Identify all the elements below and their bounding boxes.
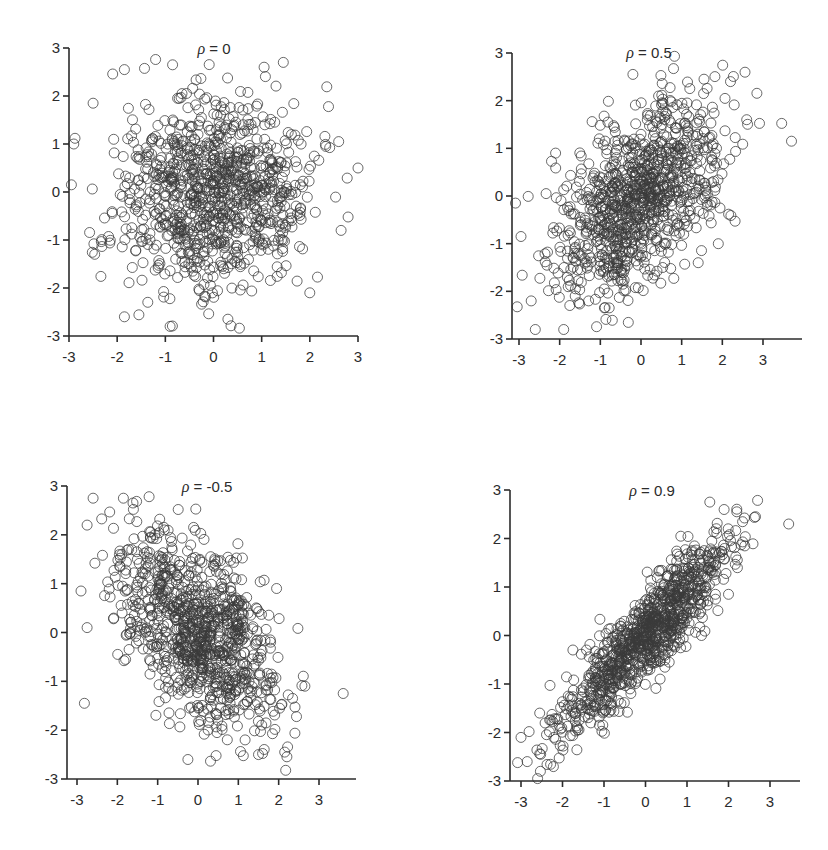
data-point [190, 525, 200, 535]
data-point [777, 118, 787, 128]
data-point [693, 258, 703, 268]
x-tick-label: -2 [111, 791, 124, 808]
data-point [119, 312, 129, 322]
data-point [704, 211, 714, 221]
data-point [724, 589, 734, 599]
data-point [129, 534, 139, 544]
data-point [656, 278, 666, 288]
x-tick-label: -3 [62, 348, 75, 365]
panel-title: ρ = 0 [196, 40, 230, 58]
data-point [677, 240, 687, 250]
data-point [562, 272, 572, 282]
data-point [90, 249, 100, 259]
y-tick-label: -3 [45, 770, 58, 787]
x-tick-label: 0 [641, 793, 649, 810]
data-point [574, 176, 584, 186]
x-tick-label: 3 [759, 351, 767, 368]
data-point [280, 167, 290, 177]
data-point [692, 100, 702, 110]
data-point [69, 139, 79, 149]
data-point [676, 531, 686, 541]
data-point [752, 88, 762, 98]
y-tick-label: -2 [45, 721, 58, 738]
y-tick-label: 2 [52, 87, 60, 104]
data-point [666, 555, 676, 565]
data-point [669, 273, 679, 283]
y-tick-label: -3 [47, 327, 60, 344]
data-point [336, 225, 346, 235]
data-point [715, 203, 725, 213]
data-point [159, 292, 169, 302]
x-tick-label: 0 [637, 351, 645, 368]
data-point [595, 614, 605, 624]
data-point [568, 645, 578, 655]
data-point [338, 689, 348, 699]
data-point [732, 507, 742, 517]
data-point [576, 277, 586, 287]
data-point [109, 148, 119, 158]
scatter-figure: -3-2-10123-3-2-10123 ρ = 0 -3-2-10123-3-… [0, 0, 828, 850]
data-point [566, 170, 576, 180]
x-tick-label: 3 [354, 348, 362, 365]
y-tick-label: 0 [495, 187, 503, 204]
x-tick-label: -3 [70, 791, 83, 808]
data-point [541, 189, 551, 199]
data-point [572, 192, 582, 202]
data-point [109, 614, 119, 624]
data-point [138, 258, 148, 268]
y-tick-label: -1 [47, 231, 60, 248]
panel-rho-0.9: -3-2-10123-3-2-10123 ρ = 0.9 [488, 481, 800, 810]
data-point [82, 623, 92, 633]
data-point [585, 639, 595, 649]
data-point [709, 527, 719, 537]
data-point [266, 695, 276, 705]
data-point [131, 246, 141, 256]
x-tick-label: 1 [257, 348, 265, 365]
data-point [646, 244, 656, 254]
data-point [575, 148, 585, 158]
data-point [530, 325, 540, 335]
data-point [713, 239, 723, 249]
data-point [282, 139, 292, 149]
x-tick-label: 2 [718, 351, 726, 368]
data-point [167, 321, 177, 331]
data-point [129, 137, 139, 147]
data-point [302, 127, 312, 137]
data-point [706, 218, 716, 228]
data-point [636, 98, 646, 108]
data-point [274, 614, 284, 624]
data-point [290, 728, 300, 738]
data-point [324, 102, 334, 112]
data-point [513, 758, 523, 768]
data-point [143, 164, 153, 174]
data-point [292, 712, 302, 722]
data-point [683, 77, 693, 87]
panel-rho-0: -3-2-10123-3-2-10123 ρ = 0 [47, 39, 363, 365]
y-tick-label: 2 [493, 530, 501, 547]
data-point [85, 228, 95, 238]
data-point [108, 69, 118, 79]
data-point [199, 534, 209, 544]
data-point [543, 247, 553, 257]
data-point [88, 493, 98, 503]
y-tick-label: -2 [488, 724, 501, 741]
data-point [259, 62, 269, 72]
data-point [713, 606, 723, 616]
data-point [131, 638, 141, 648]
data-point [252, 134, 262, 144]
data-point [322, 82, 332, 92]
data-point [298, 671, 308, 681]
data-point [196, 528, 206, 538]
data-point [168, 60, 178, 70]
data-point [100, 591, 110, 601]
data-point [240, 648, 250, 658]
data-point [151, 710, 161, 720]
data-point [155, 514, 165, 524]
data-point [132, 496, 142, 506]
x-tick-label: 1 [234, 791, 242, 808]
data-point [177, 533, 187, 543]
data-point [204, 60, 214, 70]
data-point [82, 520, 92, 530]
data-point [123, 103, 133, 113]
data-point [204, 309, 214, 319]
